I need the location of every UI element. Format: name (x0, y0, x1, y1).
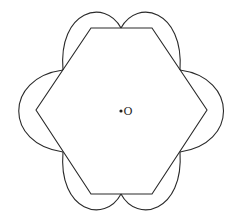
petal-right (180, 70, 224, 152)
center-label: O (124, 105, 133, 118)
center-point (119, 109, 122, 112)
petal-top-left (63, 12, 121, 70)
hexagon-petal-diagram: O (0, 0, 243, 221)
petal-bottom-right (121, 152, 180, 210)
petal-top-right (121, 12, 180, 70)
petal-left (19, 70, 63, 152)
petal-bottom-left (63, 152, 121, 210)
